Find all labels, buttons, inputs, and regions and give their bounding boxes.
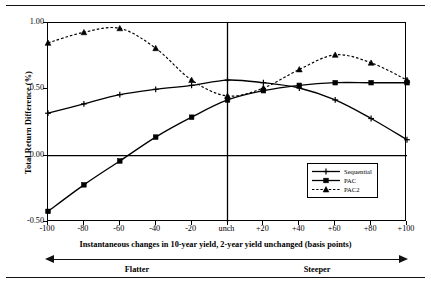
data-point-marker — [81, 29, 87, 34]
data-point-marker — [369, 80, 374, 85]
data-point-marker — [404, 137, 410, 143]
y-tick-label: 0.00 — [10, 151, 44, 159]
x-tick-label: +100 — [398, 224, 415, 233]
legend-label: Sequential — [344, 168, 372, 175]
legend-label: PAC — [344, 177, 356, 184]
legend-swatch-icon — [311, 185, 341, 194]
arrow-head-right-icon — [399, 255, 408, 263]
legend-item: PAC2 — [311, 185, 372, 194]
x-tick-label: -60 — [113, 224, 124, 233]
data-point-marker — [82, 183, 87, 188]
x-tick-label: +20 — [256, 224, 269, 233]
data-point-marker — [189, 115, 194, 120]
x-tick-label: -40 — [149, 224, 160, 233]
x-axis-title: Instantaneous changes in 10-year yield, … — [0, 240, 431, 249]
data-point-marker — [323, 169, 329, 175]
x-tick-mark — [334, 221, 335, 225]
y-tick-label: 1.00 — [10, 18, 44, 26]
direction-label-steeper: Steeper — [304, 265, 331, 274]
data-point-marker — [117, 92, 123, 98]
data-point-marker — [324, 178, 329, 183]
legend-swatch-icon — [311, 167, 341, 176]
x-tick-label: unch — [219, 224, 235, 233]
chart-figure: Total Return Difference (%) 1.000.500.00… — [0, 0, 431, 283]
bottom-rule — [6, 277, 425, 278]
arrow-head-left-icon — [45, 255, 54, 263]
data-point-marker — [118, 159, 123, 164]
legend-label: PAC2 — [344, 186, 360, 193]
x-tick-mark — [298, 221, 299, 225]
data-point-marker — [189, 82, 195, 88]
chart-legend: SequentialPACPAC2 — [307, 163, 378, 198]
x-tick-mark — [83, 221, 84, 225]
data-point-marker — [45, 110, 51, 116]
data-point-marker — [117, 25, 123, 30]
data-point-marker — [323, 187, 329, 192]
x-tick-mark — [119, 221, 120, 225]
x-tick-mark — [191, 221, 192, 225]
x-tick-label: +40 — [292, 224, 305, 233]
data-point-marker — [368, 116, 374, 122]
x-tick-label: -20 — [185, 224, 196, 233]
x-tick-mark — [262, 221, 263, 225]
data-point-marker — [189, 77, 195, 82]
direction-arrow — [47, 255, 406, 265]
x-tick-mark — [406, 221, 407, 225]
data-point-marker — [333, 80, 338, 85]
y-tick-label: 0.50 — [10, 84, 44, 92]
x-tick-label: -100 — [39, 224, 54, 233]
data-point-marker — [261, 85, 267, 90]
direction-label-flatter: Flatter — [125, 265, 149, 274]
legend-item: Sequential — [311, 167, 372, 176]
x-tick-mark — [155, 221, 156, 225]
data-point-marker — [153, 135, 158, 140]
x-axis-tick-labels: -100-80-60-40-20unch+20+40+60+80+100 — [0, 224, 431, 236]
data-point-marker — [225, 77, 231, 83]
x-tick-mark — [227, 221, 228, 225]
x-tick-mark — [47, 221, 48, 225]
data-point-marker — [297, 83, 302, 88]
data-point-marker — [404, 77, 410, 82]
data-point-marker — [296, 67, 302, 72]
data-point-marker — [332, 52, 338, 57]
legend-swatch-icon — [311, 176, 341, 185]
x-tick-mark — [370, 221, 371, 225]
x-tick-label: -80 — [77, 224, 88, 233]
arrow-line — [53, 259, 400, 260]
data-point-marker — [332, 97, 338, 103]
data-point-marker — [46, 209, 51, 214]
top-rule — [6, 5, 425, 6]
x-tick-label: +80 — [364, 224, 377, 233]
data-point-marker — [81, 101, 87, 107]
legend-item: PAC — [311, 176, 372, 185]
data-point-marker — [153, 86, 159, 92]
x-tick-label: +60 — [328, 224, 341, 233]
